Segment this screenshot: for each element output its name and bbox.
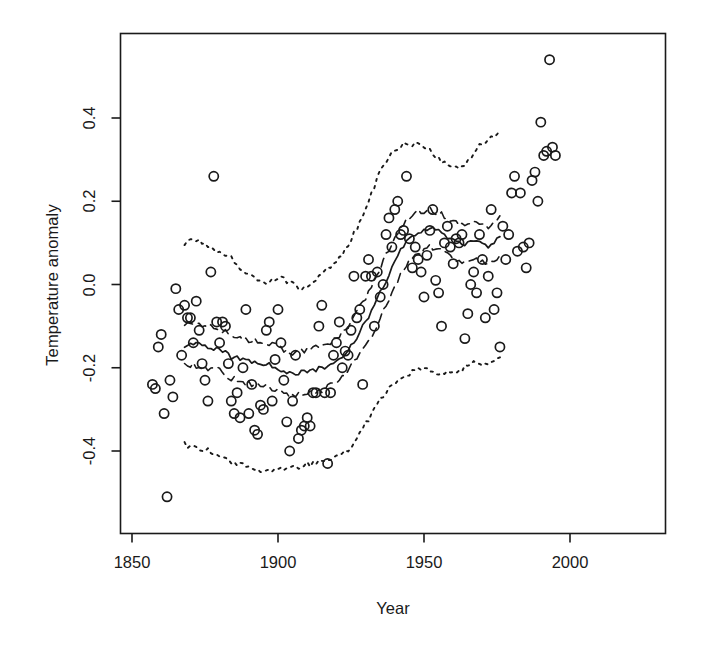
data-point-marker (516, 188, 525, 197)
data-point-marker (358, 380, 367, 389)
data-point-marker (469, 267, 478, 276)
data-point-marker (463, 309, 472, 318)
data-point-marker (273, 305, 282, 314)
data-points (148, 55, 560, 501)
data-point-marker (466, 280, 475, 289)
data-point-marker (238, 363, 247, 372)
data-point-marker (192, 297, 201, 306)
data-point-marker (492, 288, 501, 297)
data-point-marker (279, 376, 288, 385)
data-point-marker (197, 359, 206, 368)
data-point-marker (484, 272, 493, 281)
data-point-marker (326, 388, 335, 397)
data-point-marker (551, 151, 560, 160)
data-point-marker (162, 492, 171, 501)
series-line-solid (185, 227, 500, 374)
data-point-marker (501, 255, 510, 264)
data-point-marker (282, 417, 291, 426)
y-tick-label: -0.4 (79, 437, 98, 465)
data-point-marker (227, 396, 236, 405)
data-point-marker (247, 380, 256, 389)
data-point-marker (349, 272, 358, 281)
data-point-marker (224, 359, 233, 368)
data-point-marker (422, 251, 431, 260)
x-tick-label: 2000 (552, 552, 589, 571)
data-point-marker (285, 446, 294, 455)
data-point-marker (370, 322, 379, 331)
data-point-marker (154, 342, 163, 351)
data-point-marker (157, 330, 166, 339)
data-point-marker (317, 301, 326, 310)
data-point-marker (335, 317, 344, 326)
data-point-marker (265, 317, 274, 326)
data-point-marker (165, 376, 174, 385)
data-point-marker (288, 396, 297, 405)
x-axis-title: Year (376, 599, 410, 618)
data-point-marker (495, 342, 504, 351)
y-tick-label: 0.0 (79, 273, 98, 296)
data-point-marker (233, 388, 242, 397)
y-axis-title: Temperature anomaly (43, 204, 62, 365)
data-point-marker (475, 230, 484, 239)
data-point-marker (203, 396, 212, 405)
plot-frame-rect (121, 34, 666, 534)
series-line-dotted (185, 130, 500, 290)
data-point-marker (206, 267, 215, 276)
data-point-marker (419, 292, 428, 301)
data-point-marker (402, 172, 411, 181)
data-point-marker (171, 284, 180, 293)
data-point-marker (545, 55, 554, 64)
data-point-marker (510, 172, 519, 181)
series-line-dashed (185, 244, 500, 397)
y-tick-label: 0.4 (79, 107, 98, 130)
data-point-marker (489, 305, 498, 314)
data-point-marker (346, 326, 355, 335)
data-point-marker (241, 305, 250, 314)
scatter-plot-svg (0, 0, 706, 653)
series-line-dashed (185, 207, 500, 355)
data-point-marker (414, 255, 423, 264)
data-point-marker (449, 259, 458, 268)
series-lines (185, 130, 500, 472)
x-tick-label: 1900 (260, 552, 297, 571)
data-point-marker (393, 197, 402, 206)
data-point-marker (411, 242, 420, 251)
data-point-marker (200, 376, 209, 385)
data-point-marker (215, 338, 224, 347)
figure-container: Temperature anomaly Year 185019001950200… (0, 0, 706, 653)
x-axis-ticks (132, 534, 570, 543)
data-point-marker (329, 351, 338, 360)
y-tick-label: 0.2 (79, 190, 98, 213)
data-point-marker (338, 363, 347, 372)
data-point-marker (384, 213, 393, 222)
data-point-marker (533, 197, 542, 206)
data-point-marker (364, 255, 373, 264)
data-point-marker (209, 172, 218, 181)
data-point-marker (481, 313, 490, 322)
data-point-marker (472, 288, 481, 297)
data-point-marker (332, 338, 341, 347)
data-point-marker (244, 409, 253, 418)
x-tick-label: 1950 (406, 552, 443, 571)
data-point-marker (168, 392, 177, 401)
data-point-marker (306, 421, 315, 430)
data-point-marker (416, 267, 425, 276)
data-point-marker (195, 326, 204, 335)
data-point-marker (507, 188, 516, 197)
data-point-marker (498, 222, 507, 231)
data-point-marker (437, 322, 446, 331)
data-point-marker (355, 305, 364, 314)
data-point-marker (431, 276, 440, 285)
data-point-marker (314, 322, 323, 331)
data-point-marker (160, 409, 169, 418)
data-point-marker (177, 351, 186, 360)
data-point-marker (504, 230, 513, 239)
data-point-marker (434, 288, 443, 297)
plot-frame (121, 34, 666, 534)
data-point-marker (522, 263, 531, 272)
data-point-marker (270, 355, 279, 364)
data-point-marker (381, 230, 390, 239)
series-line-dotted (185, 357, 500, 472)
data-point-marker (443, 222, 452, 231)
data-point-marker (323, 459, 332, 468)
